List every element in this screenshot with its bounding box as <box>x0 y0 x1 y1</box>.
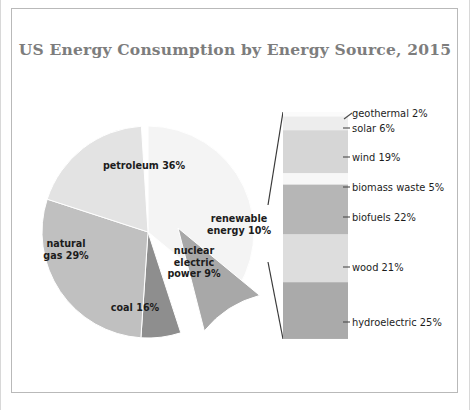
bar-segment-wind[interactable] <box>283 130 348 173</box>
bar-label-hydroelectric: hydroelectric 25% <box>352 317 442 329</box>
bar-label-wind: wind 19% <box>352 152 400 164</box>
pie-label-natural-gas-line1: natural <box>22 238 110 250</box>
pie-of-bar-chart <box>0 0 470 410</box>
pie-label-nuclear-line3: power 9% <box>152 268 236 280</box>
pie-label-renewable-line2: energy 10% <box>196 225 282 237</box>
connector-line-top <box>268 112 283 205</box>
pie-label-petroleum: petroleum 36% <box>84 160 204 172</box>
pie-label-nuclear-electric-power: nuclear electric power 9% <box>152 245 236 280</box>
pie-label-natural-gas-line2: gas 29% <box>22 250 110 262</box>
bar-segment-biofuels[interactable] <box>283 185 348 235</box>
pie-label-natural-gas: natural gas 29% <box>22 238 110 261</box>
pie-label-renewable-energy: renewable energy 10% <box>196 213 282 236</box>
bar-segment-hydroelectric[interactable] <box>283 282 348 339</box>
pie-label-nuclear-line2: electric <box>152 257 236 269</box>
bar-segment-solar[interactable] <box>283 117 348 131</box>
bar-label-wood: wood 21% <box>352 262 404 274</box>
bar-label-biofuels: biofuels 22% <box>352 212 416 224</box>
chart-page: US Energy Consumption by Energy Source, … <box>0 0 470 410</box>
connector-line-bottom <box>268 262 283 339</box>
bar-segment-biomass-waste[interactable] <box>283 173 348 184</box>
pie-label-nuclear-line1: nuclear <box>152 245 236 257</box>
bar-segment-geothermal[interactable] <box>283 112 348 117</box>
bar-label-biomass-waste: biomass waste 5% <box>352 182 444 194</box>
renewable-breakout-bar <box>283 112 348 339</box>
bar-label-geothermal: geothermal 2% <box>352 108 428 120</box>
pie-label-renewable-line1: renewable <box>196 213 282 225</box>
bar-label-solar: solar 6% <box>352 123 395 135</box>
pie-label-coal: coal 16% <box>92 302 178 314</box>
bar-segment-wood[interactable] <box>283 235 348 283</box>
